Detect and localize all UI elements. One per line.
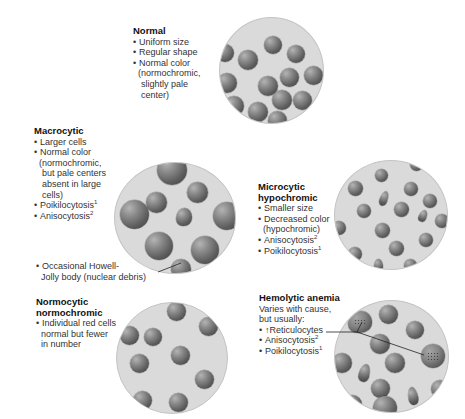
red-blood-cell	[171, 346, 190, 365]
macrocytic-item: •Normal color	[34, 147, 106, 158]
red-blood-cell-small	[348, 247, 362, 261]
normocytic-blood-smear	[116, 302, 228, 414]
red-blood-cell	[120, 326, 139, 345]
red-blood-cell	[334, 353, 352, 373]
red-blood-cell-small	[334, 221, 346, 235]
red-blood-cell	[167, 302, 186, 321]
normal-item-cont: slightly pale	[133, 79, 201, 90]
callout-line: Jolly body (nuclear debris)	[36, 272, 146, 283]
red-blood-cell	[293, 91, 312, 110]
red-blood-cell	[195, 370, 214, 389]
microcytic-title: hypochromic	[258, 193, 330, 204]
howell-jolly-callout: •Occasional Howell- Jolly body (nuclear …	[36, 261, 146, 282]
normal-item-cont: center)	[133, 90, 201, 101]
macrocytic-item: •Anisocytosis2	[34, 211, 106, 222]
hemolytic-intro: but usually:	[259, 314, 340, 325]
red-blood-cell-small	[404, 182, 418, 196]
normocytic-item: •Individual red cells	[36, 318, 116, 329]
red-blood-cell	[379, 305, 398, 324]
red-blood-cell-small	[435, 214, 448, 228]
normocytic-item-cont: in number	[36, 339, 116, 350]
red-blood-cell	[304, 66, 323, 85]
red-blood-cell-large	[120, 200, 149, 229]
macrocytic-blood-smear	[114, 162, 236, 274]
poikilocyte	[417, 209, 429, 223]
normal-item-cont: (normochromic,	[133, 68, 201, 79]
red-blood-cell	[199, 317, 218, 336]
hemolytic-blood-smear	[334, 300, 449, 413]
red-blood-cell-small	[423, 194, 437, 208]
red-blood-cell	[238, 50, 258, 70]
macrocytic-title: Macrocytic	[34, 126, 106, 137]
red-blood-cell	[144, 328, 162, 346]
red-blood-cell	[169, 393, 188, 412]
poikilocyte	[378, 190, 391, 207]
hemolytic-label: Hemolytic anemia Varies with cause, but …	[259, 293, 340, 357]
red-blood-cell-small	[375, 169, 388, 182]
callout-line: •Occasional Howell-	[36, 261, 146, 272]
macrocytic-item-cont: (normochromic,	[34, 158, 106, 169]
hemolytic-item: •Anisocytosis2	[259, 335, 340, 346]
microcytic-item: •Poikilocytosis1	[258, 246, 330, 257]
normal-blood-smear	[219, 17, 324, 124]
red-blood-cell	[245, 122, 265, 124]
red-blood-cell	[431, 380, 449, 398]
normocytic-title: normochromic	[36, 308, 116, 319]
red-blood-cell	[133, 391, 152, 410]
red-blood-cell-large	[191, 236, 219, 264]
macrocytic-label: Macrocytic •Larger cells •Normal color (…	[34, 126, 106, 221]
microcytic-item: •Decreased color	[258, 214, 330, 225]
red-blood-cell	[371, 379, 390, 398]
microcytic-blood-smear	[334, 160, 448, 270]
reticulocyte	[421, 344, 445, 368]
poikilocyte	[176, 208, 192, 226]
red-blood-cell	[130, 354, 149, 373]
howell-jolly-cell	[171, 259, 191, 274]
red-blood-cell-small	[357, 204, 371, 218]
red-blood-cell	[272, 90, 292, 110]
macrocytic-item: •Larger cells	[34, 137, 106, 148]
microcytic-label: Microcytic hypochromic •Smaller size •De…	[258, 182, 330, 256]
normal-label: Normal •Uniform size •Regular shape •Nor…	[133, 26, 201, 100]
normal-item: •Regular shape	[133, 47, 201, 58]
red-blood-cell	[385, 353, 405, 373]
normocytic-item-cont: normal but fewer	[36, 329, 116, 340]
red-blood-cell-small	[394, 202, 409, 217]
red-blood-cell-small	[389, 241, 404, 256]
macrocytic-item-cont: but pale centers	[34, 168, 106, 179]
red-blood-cell	[224, 96, 244, 116]
poikilocyte	[357, 363, 372, 383]
red-blood-cell	[280, 68, 299, 87]
microcytic-item-cont: (hypochromic)	[258, 224, 330, 235]
red-blood-cell-small	[375, 223, 390, 238]
red-blood-cell	[146, 192, 167, 213]
red-blood-cell-large	[157, 162, 187, 185]
red-blood-cell-small	[348, 181, 363, 196]
normocytic-label: Normocytic normochromic •Individual red …	[36, 297, 116, 350]
normal-item: •Normal color	[133, 58, 201, 69]
red-blood-cell	[343, 395, 362, 413]
red-blood-cell	[370, 334, 390, 354]
red-blood-cell	[219, 44, 234, 62]
hemolytic-title: Hemolytic anemia	[259, 293, 340, 304]
macrocytic-item: •Poikilocytosis1	[34, 200, 106, 211]
red-blood-cell	[187, 182, 208, 203]
hemolytic-item: •↑Reticulocytes	[259, 325, 340, 336]
red-blood-cell-large	[213, 202, 236, 230]
red-blood-cell	[248, 102, 268, 122]
hemolytic-intro: Varies with cause,	[259, 304, 340, 315]
red-blood-cell-small	[410, 160, 423, 171]
poikilocyte	[374, 259, 383, 270]
microcytic-title: Microcytic	[258, 182, 330, 193]
red-blood-cell-large	[373, 396, 397, 413]
red-blood-cell-small	[404, 259, 417, 270]
red-blood-cell	[219, 73, 237, 93]
red-blood-cell	[268, 111, 287, 124]
normal-item: •Uniform size	[133, 37, 201, 48]
hemolytic-item: •Poikilocytosis1	[259, 346, 340, 357]
red-blood-cell	[264, 36, 282, 54]
macrocytic-item-cont: absent in large	[34, 179, 106, 190]
red-blood-cell	[406, 321, 424, 339]
red-blood-cell-small	[419, 233, 433, 247]
normocytic-title: Normocytic	[36, 297, 116, 308]
